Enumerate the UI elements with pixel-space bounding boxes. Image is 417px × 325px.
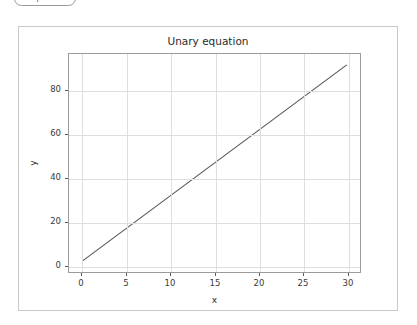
gridline-vertical <box>349 54 350 272</box>
x-axis-tick-label: 0 <box>68 278 94 288</box>
x-axis-tick-label: 20 <box>246 278 272 288</box>
data-series-line <box>82 65 347 261</box>
x-axis-tick <box>215 273 216 276</box>
y-axis-tick <box>65 266 68 267</box>
x-axis-tick <box>303 273 304 276</box>
y-axis-label: y <box>28 160 38 165</box>
y-axis-tick-label: 60 <box>35 128 61 138</box>
gridline-horizontal <box>69 91 360 92</box>
y-axis-tick-label: 0 <box>35 260 61 270</box>
gridline-horizontal <box>69 267 360 268</box>
y-axis-tick <box>65 178 68 179</box>
gridline-vertical <box>82 54 83 272</box>
x-axis-label: x <box>68 295 361 305</box>
line-chart: Unary equation x y <box>19 27 397 310</box>
gridline-vertical <box>127 54 128 272</box>
x-axis-tick-label: 5 <box>113 278 139 288</box>
chart-title: Unary equation <box>19 35 397 47</box>
x-axis-tick <box>126 273 127 276</box>
matplotlib-badge[interactable]: matplotlib <box>14 0 76 6</box>
x-axis-tick-label: 10 <box>157 278 183 288</box>
plot-line-svg <box>69 54 360 272</box>
y-axis-tick-label: 40 <box>35 172 61 182</box>
figure-card: Unary equation x y 051015202530020406080 <box>18 26 398 311</box>
plot-area <box>68 53 361 273</box>
gridline-vertical <box>260 54 261 272</box>
matplotlib-badge-label: matplotlib <box>20 0 63 2</box>
gridline-horizontal <box>69 223 360 224</box>
gridline-horizontal <box>69 179 360 180</box>
x-axis-tick-label: 25 <box>290 278 316 288</box>
x-axis-tick <box>348 273 349 276</box>
y-axis-tick <box>65 134 68 135</box>
gridline-vertical <box>216 54 217 272</box>
x-axis-tick <box>259 273 260 276</box>
y-axis-tick <box>65 222 68 223</box>
x-axis-tick <box>81 273 82 276</box>
x-axis-tick-label: 15 <box>202 278 228 288</box>
y-axis-tick-label: 20 <box>35 216 61 226</box>
y-axis-tick-label: 80 <box>35 84 61 94</box>
x-axis-tick <box>170 273 171 276</box>
gridline-horizontal <box>69 135 360 136</box>
x-axis-tick-label: 30 <box>335 278 361 288</box>
y-axis-tick <box>65 90 68 91</box>
gridline-vertical <box>304 54 305 272</box>
gridline-vertical <box>171 54 172 272</box>
